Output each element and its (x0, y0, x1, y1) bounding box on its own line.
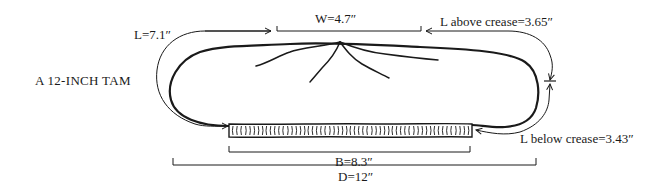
tam-drawing (0, 0, 667, 189)
length-above-crease-label: L above crease=3.65″ (440, 15, 553, 28)
width-label: W=4.7″ (315, 12, 356, 25)
diameter-label: D=12″ (338, 170, 373, 183)
diagram-title: A 12-INCH TAM (35, 74, 131, 87)
tam-diagram: A 12-INCH TAM L=7.1″ W=4.7″ L above crea… (0, 0, 667, 189)
ribbed-band (229, 124, 472, 138)
band-bracket (229, 146, 470, 152)
tam-outline (170, 43, 538, 127)
length-below-crease-arrow (476, 100, 549, 134)
width-bracket (277, 26, 421, 31)
length-below-crease-label: L below crease=3.43″ (520, 132, 634, 145)
length-above-crease-arrow (508, 31, 552, 80)
crown-gathers (256, 42, 438, 82)
length-top-label: L=7.1″ (134, 28, 171, 41)
band-label: B=8.3″ (335, 155, 373, 168)
